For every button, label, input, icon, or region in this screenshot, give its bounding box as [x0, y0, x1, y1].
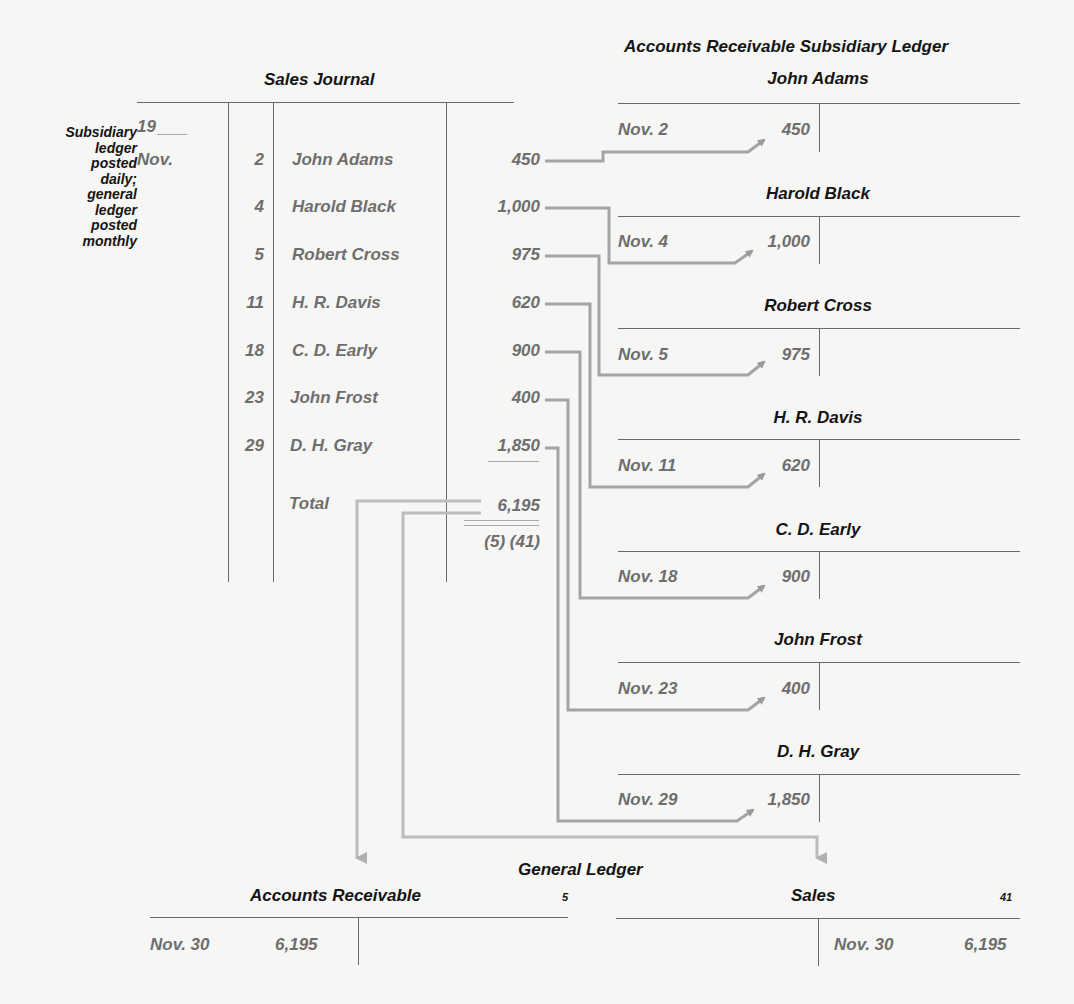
arrow-frost	[545, 400, 764, 710]
arrow-davis	[545, 304, 764, 487]
arrow-total-to-sales	[403, 513, 817, 858]
arrow-adams	[545, 140, 764, 161]
arrow-gray	[545, 448, 753, 821]
posting-arrows	[0, 0, 1074, 1004]
arrow-early	[545, 352, 764, 598]
arrow-total-to-ar	[357, 501, 481, 858]
arrow-cross	[545, 256, 764, 375]
